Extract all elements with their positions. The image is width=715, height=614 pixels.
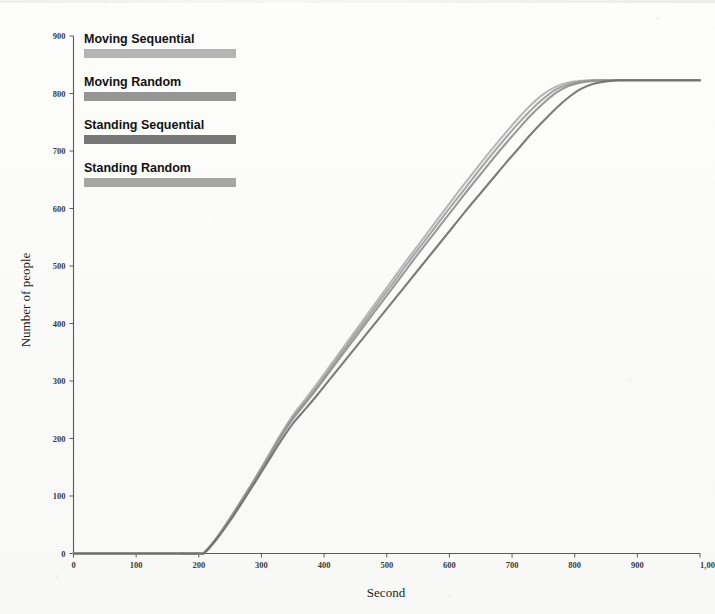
- y-tick-label: 200: [53, 434, 66, 444]
- y-tick-label: 500: [53, 261, 66, 271]
- x-tick-label: 200: [192, 560, 205, 570]
- series-line: [74, 80, 701, 553]
- x-axis-ticks: 01002003004005006007008009001,00: [71, 554, 715, 570]
- x-tick-label: 600: [443, 560, 456, 570]
- x-tick-label: 500: [380, 560, 393, 570]
- x-tick-label: 300: [255, 560, 268, 570]
- legend-item-label: Standing Sequential: [84, 118, 204, 132]
- y-tick-label: 600: [53, 204, 66, 214]
- series-line: [74, 80, 701, 553]
- y-axis-ticks: 0100200300400500600700800900: [53, 31, 74, 559]
- legend-color-swatch: [84, 49, 236, 58]
- x-tick-label: 800: [568, 560, 581, 570]
- y-tick-label: 800: [53, 89, 66, 99]
- y-tick-label: 700: [53, 146, 66, 156]
- x-tick-label: 1,00: [700, 560, 715, 570]
- y-tick-label: 100: [53, 491, 66, 501]
- legend-item-label: Standing Random: [84, 161, 191, 175]
- legend-color-swatch: [84, 92, 236, 101]
- series-line: [74, 80, 701, 554]
- legend-color-swatch: [84, 135, 236, 144]
- y-tick-label: 900: [53, 31, 66, 41]
- x-tick-label: 400: [318, 560, 331, 570]
- x-tick-label: 100: [130, 560, 143, 570]
- x-tick-label: 900: [631, 560, 644, 570]
- x-tick-label: 0: [71, 560, 75, 570]
- y-axis-title: Number of people: [18, 252, 33, 347]
- series-lines-group: [74, 80, 701, 554]
- y-tick-label: 300: [53, 376, 66, 386]
- x-tick-label: 700: [506, 560, 519, 570]
- legend-color-swatch: [84, 178, 236, 187]
- series-line: [74, 80, 701, 553]
- y-tick-label: 0: [61, 549, 65, 559]
- y-tick-label: 400: [53, 319, 66, 329]
- line-chart-figure: 0100200300400500600700800900 01002003004…: [0, 0, 715, 614]
- legend-item-label: Moving Random: [84, 75, 181, 89]
- x-axis-title: Second: [367, 585, 406, 600]
- legend-item-label: Moving Sequential: [84, 32, 194, 46]
- chart-legend: Moving SequentialMoving RandomStanding S…: [84, 32, 236, 187]
